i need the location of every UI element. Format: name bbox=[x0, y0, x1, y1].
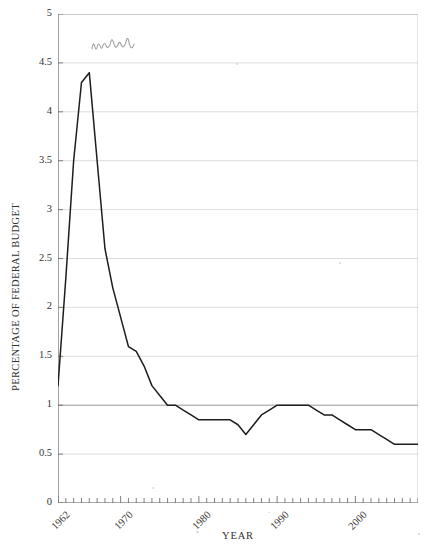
plot-area bbox=[58, 14, 418, 503]
scan-speckle bbox=[418, 533, 420, 535]
x-axis-tick-marks bbox=[58, 496, 418, 503]
y-tick-label: 0 bbox=[12, 496, 52, 507]
scan-speckle bbox=[196, 531, 199, 533]
handwritten-wow-annotation bbox=[90, 33, 138, 59]
y-tick-label: 5 bbox=[12, 7, 52, 18]
y-axis-tick-labels: 00.511.522.533.544.55 bbox=[8, 14, 52, 503]
scan-speckle bbox=[268, 512, 270, 513]
y-tick-label: 4 bbox=[12, 105, 52, 116]
y-tick-label: 3 bbox=[12, 203, 52, 214]
y-axis-tick-marks bbox=[58, 14, 63, 503]
scan-speckle bbox=[152, 487, 154, 489]
gridlines bbox=[58, 14, 418, 454]
line-chart-figure: PERCENTAGE OF FEDERAL BUDGET 00.511.522.… bbox=[0, 0, 438, 556]
y-tick-label: 1.5 bbox=[12, 349, 52, 360]
y-tick-label: 2 bbox=[12, 300, 52, 311]
scan-speckle bbox=[236, 63, 238, 65]
y-tick-label: 4.5 bbox=[12, 56, 52, 67]
plot-svg bbox=[58, 14, 418, 503]
y-tick-label: 2.5 bbox=[12, 252, 52, 263]
y-tick-label: 3.5 bbox=[12, 154, 52, 165]
y-tick-label: 0.5 bbox=[12, 447, 52, 458]
x-axis-title: YEAR bbox=[58, 530, 418, 541]
scan-speckle bbox=[339, 262, 341, 264]
x-axis-tick-labels: 19621970198019902000 bbox=[58, 503, 418, 549]
y-tick-label: 1 bbox=[12, 398, 52, 409]
